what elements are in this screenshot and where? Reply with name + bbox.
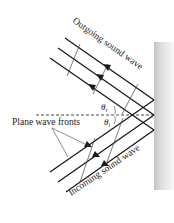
sound-reflection-diagram: Outgoing sound wave Incoming sound wave …: [0, 0, 174, 223]
wavefronts-label: Plane wave fronts: [12, 117, 80, 127]
theta-i-arc: [114, 116, 115, 124]
outgoing-arrowheads: [88, 64, 111, 91]
wavefront-pointers: [52, 128, 91, 157]
theta-i-label: θi: [104, 117, 110, 128]
reflecting-wall: [154, 42, 174, 190]
diagram-canvas: Outgoing sound wave Incoming sound wave …: [0, 0, 174, 223]
theta-r-label: θr: [101, 102, 108, 113]
outgoing-label: Outgoing sound wave: [71, 15, 145, 71]
incoming-label: Incoming sound wave: [67, 142, 142, 197]
theta-r-arc: [114, 106, 115, 114]
